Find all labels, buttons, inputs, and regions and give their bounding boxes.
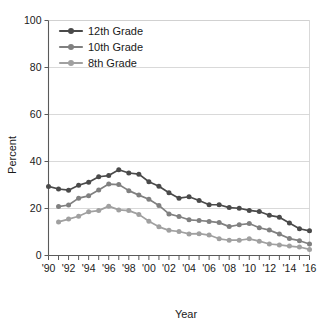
data-point-marker [166,211,171,216]
data-point-marker [287,244,292,249]
data-point-marker [227,224,232,229]
x-tick-label-1994: '94 [82,262,96,274]
data-point-marker [277,242,282,247]
data-point-marker [307,228,312,233]
data-point-marker [197,231,202,236]
x-tick-label-2004: '04 [182,262,196,274]
x-tick-label-1998: '98 [122,262,136,274]
data-point-marker [197,198,202,203]
x-tick-label-1996: '96 [102,262,116,274]
data-point-marker [287,236,292,241]
data-point-marker [237,206,242,211]
series-10th-grade [56,182,312,247]
x-tick-label-2008: '08 [222,262,236,274]
data-point-marker [86,180,91,185]
data-point-marker [156,184,161,189]
data-point-marker [187,217,192,222]
data-point-marker [257,225,262,230]
x-tick-label-2010: '10 [242,262,256,274]
data-point-marker [187,231,192,236]
data-point-marker [297,238,302,243]
data-point-marker [247,208,252,213]
data-point-marker [136,212,141,217]
data-point-marker [277,215,282,220]
x-tick-label-2012: '12 [263,262,277,274]
y-axis-ticks: 020406080100 [24,14,49,261]
data-point-marker [156,224,161,229]
x-tick-label-2000: '00 [142,262,156,274]
data-point-marker [76,196,81,201]
data-point-marker [136,172,141,177]
data-point-marker [177,214,182,219]
legend-label: 12th Grade [88,25,143,37]
data-point-marker [116,207,121,212]
data-point-marker [207,202,212,207]
y-axis-label: Percent [6,136,18,174]
data-point-marker [307,247,312,252]
data-point-marker [257,209,262,214]
data-point-marker [136,193,141,198]
x-tick-label-2016: '16 [303,262,317,274]
chart-legend: 12th Grade10th Grade8th Grade [60,25,143,69]
data-point-marker [257,239,262,244]
y-tick-label-60: 60 [30,108,42,120]
data-point-marker [146,197,151,202]
data-point-marker [126,188,131,193]
data-point-marker [307,241,312,246]
data-point-marker [56,204,61,209]
data-point-marker [277,232,282,237]
data-point-marker [217,236,222,241]
data-point-marker [207,219,212,224]
data-point-marker [297,226,302,231]
y-tick-label-20: 20 [30,202,42,214]
data-point-marker [86,209,91,214]
data-point-marker [96,187,101,192]
data-point-marker [86,193,91,198]
data-point-marker [116,167,121,172]
axes [49,21,310,256]
data-point-marker [166,190,171,195]
data-point-marker [237,238,242,243]
data-point-marker [217,220,222,225]
data-point-marker [76,214,81,219]
legend-label: 10th Grade [88,41,143,53]
x-tick-label-2002: '02 [162,262,176,274]
legend-label: 8th Grade [88,57,137,69]
legend-marker-icon [68,28,74,34]
legend-item-12th-grade[interactable]: 12th Grade [60,25,143,37]
data-point-marker [177,229,182,234]
data-point-marker [267,213,272,218]
y-tick-label-80: 80 [30,61,42,73]
data-point-marker [207,233,212,238]
series-line [59,206,310,249]
line-chart: 020406080100 '90'92'94'96'98'00'02'04'06… [0,0,325,324]
data-point-marker [56,187,61,192]
data-point-marker [76,183,81,188]
data-point-marker [106,173,111,178]
data-point-marker [56,219,61,224]
data-point-marker [247,221,252,226]
data-point-marker [267,241,272,246]
series-8th-grade [56,204,312,252]
data-point-marker [227,238,232,243]
data-point-marker [187,194,192,199]
data-point-marker [146,179,151,184]
data-point-marker [297,245,302,250]
x-tick-label-1992: '92 [62,262,76,274]
x-tick-label-2006: '06 [202,262,216,274]
data-point-marker [96,208,101,213]
x-tick-label-1990: '90 [42,262,56,274]
data-point-marker [287,221,292,226]
data-point-marker [106,204,111,209]
legend-item-10th-grade[interactable]: 10th Grade [60,41,143,53]
series-12th-grade [46,167,312,233]
data-point-marker [247,236,252,241]
legend-marker-icon [68,44,74,50]
data-point-marker [177,196,182,201]
data-point-marker [66,202,71,207]
data-point-marker [106,182,111,187]
y-tick-label-0: 0 [36,249,42,261]
data-point-marker [46,184,51,189]
data-point-marker [146,219,151,224]
data-point-marker [126,208,131,213]
